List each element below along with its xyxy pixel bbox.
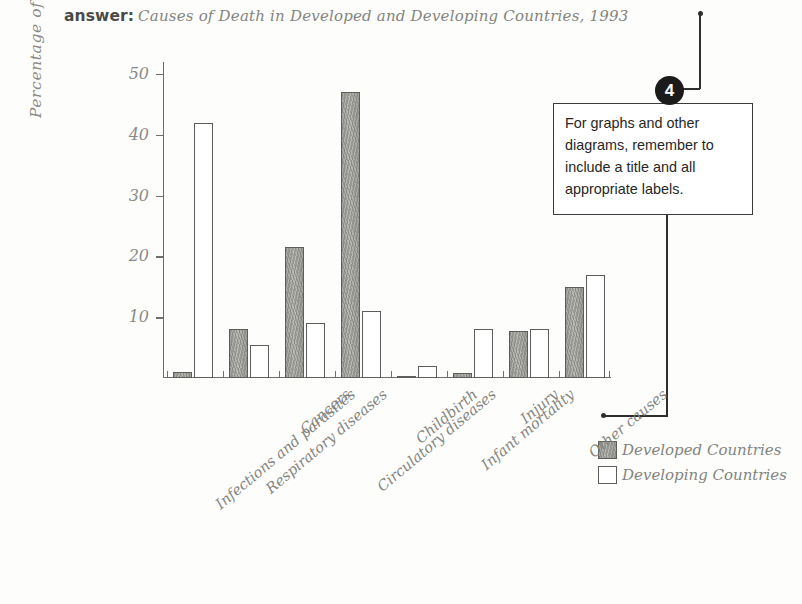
x-axis-tick — [391, 371, 392, 378]
legend-swatch-developing — [598, 466, 617, 484]
bar-developing — [530, 329, 549, 378]
legend-item: Developed Countries — [598, 437, 787, 462]
y-axis-tick — [156, 74, 163, 75]
x-axis-tick — [167, 371, 168, 378]
x-axis-tick — [503, 371, 504, 378]
y-axis-tick-label: 30 — [129, 186, 149, 205]
y-axis-tick — [156, 196, 163, 197]
bar-developed — [397, 376, 416, 378]
bar-developed — [453, 373, 472, 378]
x-axis-tick — [609, 371, 610, 378]
bar-developing — [586, 275, 605, 378]
y-axis-title: Percentage of Deaths — [27, 0, 45, 118]
chart-title: Causes of Death in Developed and Develop… — [134, 7, 628, 25]
x-axis-tick — [447, 371, 448, 378]
bar-developing — [306, 323, 325, 378]
y-axis-tick — [156, 317, 163, 318]
y-axis-tick-label: 10 — [129, 307, 149, 326]
callout-text: For graphs and other diagrams, remember … — [565, 113, 741, 201]
y-axis-tick — [156, 135, 163, 136]
y-axis-tick-label: 40 — [129, 125, 149, 144]
worksheet-page: answer:Causes of Death in Developed and … — [0, 0, 802, 604]
bar-developed — [565, 287, 584, 378]
bar-developing — [474, 329, 493, 378]
y-axis-tick-label: 20 — [129, 247, 149, 266]
callout-line-top-vertical — [699, 13, 701, 89]
x-axis-tick — [223, 371, 224, 378]
bar-developed — [229, 329, 248, 378]
bar-developed — [173, 372, 192, 378]
callout-bottom-anchor-dot — [601, 413, 606, 418]
callout-box: For graphs and other diagrams, remember … — [553, 103, 753, 215]
bar-chart-plot-area: 1020304050 — [163, 62, 611, 378]
bar-developing — [194, 123, 213, 378]
bar-developing — [362, 311, 381, 378]
y-axis-tick — [156, 256, 163, 257]
callout-number-badge: 4 — [655, 76, 684, 105]
y-axis-tick-label: 50 — [129, 64, 149, 83]
legend-item: Developing Countries — [598, 462, 787, 487]
bar-developed — [341, 92, 360, 378]
chart-legend: Developed CountriesDeveloping Countries — [598, 437, 787, 487]
callout-line-bottom-vertical — [666, 215, 668, 416]
page-title: answer:Causes of Death in Developed and … — [64, 6, 628, 25]
bar-developing — [418, 366, 437, 378]
y-axis-line — [163, 62, 164, 378]
bar-developing — [250, 345, 269, 378]
bar-developed — [285, 247, 304, 378]
answer-label: answer: — [64, 7, 134, 25]
legend-label: Developing Countries — [622, 466, 787, 484]
x-axis-tick — [559, 371, 560, 378]
x-axis-tick — [279, 371, 280, 378]
y-axis-title-wrapper: Percentage of Deaths — [26, 0, 45, 118]
x-axis-label: Circulatory diseases — [374, 386, 499, 495]
bar-developed — [509, 331, 528, 378]
legend-label: Developed Countries — [622, 441, 781, 459]
x-axis-tick — [335, 371, 336, 378]
